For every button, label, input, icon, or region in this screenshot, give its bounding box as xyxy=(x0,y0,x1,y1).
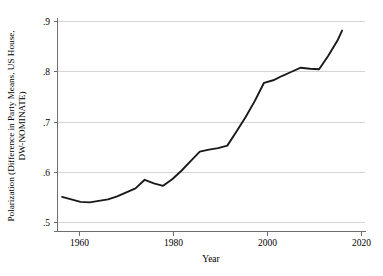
x-tick-label-1980: 1980 xyxy=(164,238,183,248)
polarization-line-chart: .9 .8 .7 .6 .5 1960 1980 2000 2020 Year … xyxy=(0,0,383,276)
gridlines xyxy=(58,22,366,223)
y-tick-label-0.6: .6 xyxy=(43,168,50,178)
x-tick-labels: 1960 1980 2000 2020 xyxy=(70,238,371,248)
y-tick-labels: .9 .8 .7 .6 .5 xyxy=(43,17,50,228)
x-tick-label-1960: 1960 xyxy=(70,238,89,248)
y-axis-title-line-2: DW-NOMINATE) xyxy=(17,92,27,161)
y-tick-label-0.7: .7 xyxy=(43,118,50,128)
chart-figure: .9 .8 .7 .6 .5 1960 1980 2000 2020 Year … xyxy=(0,0,383,276)
x-tick-marks xyxy=(80,232,362,236)
y-axis-title-line-1: Polarization (Difference in Party Means,… xyxy=(6,30,16,221)
x-tick-label-2020: 2020 xyxy=(352,238,371,248)
x-tick-label-2000: 2000 xyxy=(258,238,277,248)
y-tick-label-0.5: .5 xyxy=(43,218,50,228)
y-axis-title: Polarization (Difference in Party Means,… xyxy=(6,30,27,221)
polarization-data-line xyxy=(62,31,342,203)
y-tick-label-0.8: .8 xyxy=(43,67,50,77)
x-axis-title: Year xyxy=(202,254,220,264)
axes xyxy=(54,18,366,232)
y-tick-label-0.9: .9 xyxy=(43,17,50,27)
y-tick-marks xyxy=(54,22,58,223)
